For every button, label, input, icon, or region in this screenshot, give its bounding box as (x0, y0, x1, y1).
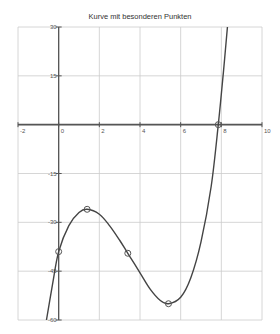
x-tick-label: 8 (223, 128, 227, 134)
x-tick-label: -2 (20, 128, 26, 134)
y-tick-label: -30 (48, 219, 57, 225)
x-tick-label: 2 (101, 128, 105, 134)
y-tick-label: -45 (48, 268, 57, 274)
special-point-markers (56, 122, 222, 307)
chart-plot-area: -202468103015-15-30-45-60 (0, 0, 280, 334)
y-tick-label: 15 (50, 73, 57, 79)
y-tick-label: 30 (50, 24, 57, 30)
x-tick-label: 0 (61, 128, 65, 134)
x-tick-label: 4 (142, 128, 146, 134)
y-tick-label: -60 (48, 317, 57, 323)
y-tick-label: -15 (48, 171, 57, 177)
x-tick-label: 10 (264, 128, 271, 134)
x-tick-label: 6 (183, 128, 187, 134)
